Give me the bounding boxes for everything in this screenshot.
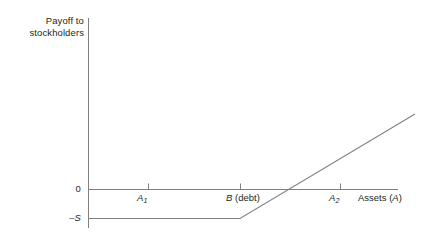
y-tick-label-neg-s: –S bbox=[58, 212, 81, 224]
y-tick-label-zero: 0 bbox=[60, 183, 81, 195]
x-tick-label-a2-var: A bbox=[329, 192, 335, 203]
x-tick-label-a2: A2 bbox=[329, 192, 339, 205]
x-tick-label-a1: A1 bbox=[137, 192, 147, 205]
x-axis-label-prefix: Assets ( bbox=[358, 192, 392, 203]
y-axis-label: Payoff to stockholders bbox=[6, 15, 84, 39]
x-axis-label: Assets (A) bbox=[358, 192, 402, 204]
y-axis-label-line2: stockholders bbox=[6, 27, 84, 39]
y-axis-label-line1: Payoff to bbox=[6, 15, 84, 27]
x-axis-label-suffix: ) bbox=[399, 192, 402, 203]
x-tick-label-a1-sub: 1 bbox=[144, 197, 148, 204]
x-tick-label-b: B (debt) bbox=[226, 192, 260, 204]
payoff-diagram-figure: Payoff to stockholders 0 –S A1 B (debt) … bbox=[0, 0, 439, 248]
x-tick-label-b-note: (debt) bbox=[232, 192, 259, 203]
x-tick-label-a2-sub: 2 bbox=[336, 197, 340, 204]
x-tick-label-a1-var: A bbox=[137, 192, 143, 203]
